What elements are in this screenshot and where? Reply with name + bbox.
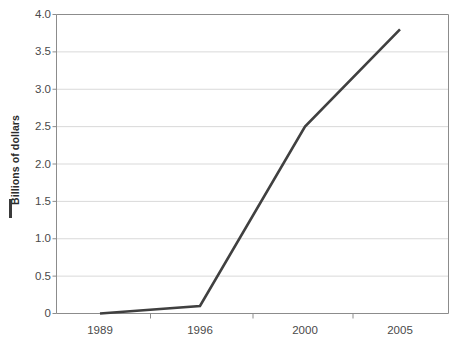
x-axis-ticks — [151, 314, 354, 319]
line-chart: Billions of dollars 00.51.01.52.02.53.03… — [0, 0, 459, 350]
plot-area — [0, 0, 459, 350]
y-axis-ticks — [53, 15, 57, 314]
gridlines — [57, 52, 449, 276]
data-series-line — [100, 29, 400, 313]
